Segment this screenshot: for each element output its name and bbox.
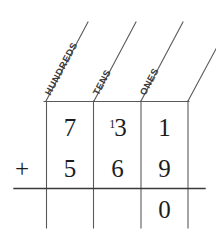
diagonal-line-4	[188, 34, 216, 101]
addend-two-hundreds: 5	[47, 156, 93, 181]
addend-one-tens-value: 3	[114, 114, 127, 141]
sum-ones: 0	[141, 197, 188, 222]
plus-sign: +	[15, 156, 29, 181]
addend-one-tens: 13	[94, 115, 141, 140]
place-value-addition-worksheet: HUNDREDS TENS ONES + 7 13 1 5 6 9 0	[0, 0, 216, 234]
addend-one-hundreds: 7	[47, 115, 93, 140]
addend-two-ones: 9	[141, 156, 188, 181]
addend-one-ones: 1	[141, 115, 188, 140]
addend-two-tens: 6	[94, 156, 141, 181]
carry-digit-tens: 1	[109, 117, 115, 131]
